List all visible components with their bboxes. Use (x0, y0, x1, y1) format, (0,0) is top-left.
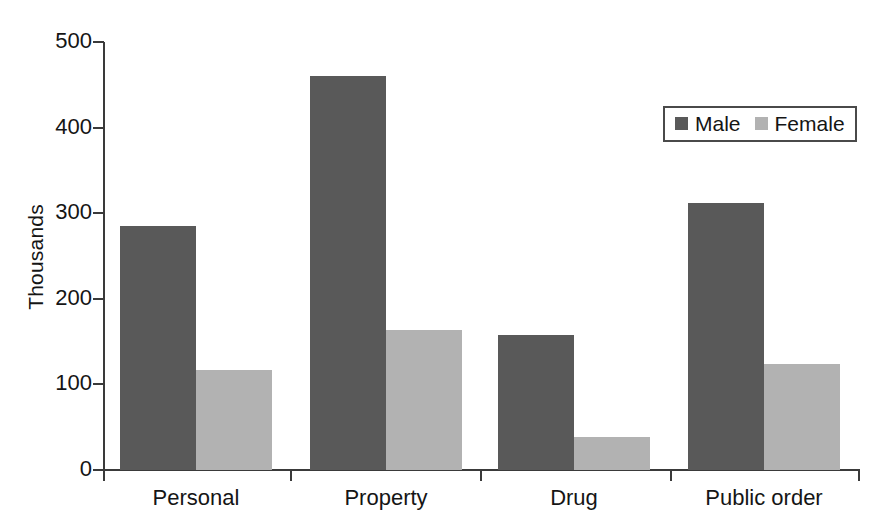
bar-male-public-order (688, 203, 764, 470)
x-axis-label-public-order: Public order (654, 486, 874, 510)
chart-legend: MaleFemale (663, 106, 857, 142)
x-tick-mark (290, 469, 292, 481)
bar-female-property (386, 330, 462, 470)
legend-item-female: Female (755, 112, 845, 135)
x-axis-label-personal: Personal (86, 486, 306, 510)
bar-male-drug (498, 335, 574, 470)
legend-label: Female (775, 112, 845, 135)
x-tick-mark (858, 469, 860, 481)
bars-layer (0, 0, 887, 470)
x-tick-mark (103, 469, 105, 481)
x-tick-mark (480, 469, 482, 481)
bar-female-personal (196, 370, 272, 470)
bar-male-personal (120, 226, 196, 470)
legend-swatch-female-icon (755, 117, 768, 130)
legend-swatch-male-icon (675, 117, 688, 130)
bar-female-drug (574, 437, 650, 470)
bar-chart: Thousands 0100200300400500 PersonalPrope… (0, 0, 887, 532)
legend-label: Male (695, 112, 741, 135)
bar-female-public-order (764, 364, 840, 470)
legend-item-male: Male (675, 112, 741, 135)
x-axis-label-drug: Drug (464, 486, 684, 510)
bar-male-property (310, 76, 386, 470)
x-axis-label-property: Property (276, 486, 496, 510)
x-tick-mark (670, 469, 672, 481)
